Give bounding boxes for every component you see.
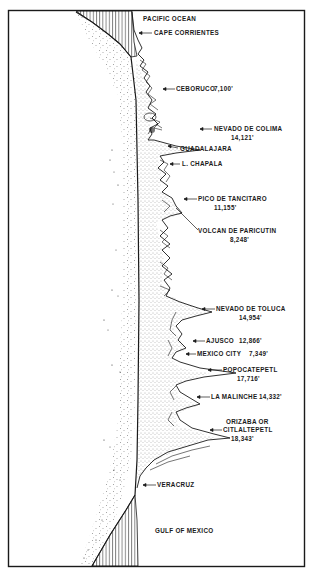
label-nevado-de-toluca: NEVADO DE TOLUCA bbox=[216, 305, 286, 312]
profile-stippled-fill bbox=[136, 60, 215, 480]
label-la-malinche-elevation: 14,332' bbox=[259, 393, 282, 401]
colima-crater bbox=[149, 127, 155, 133]
label-citlaltepetl: CITLALTEPETL bbox=[223, 426, 273, 433]
label-popocatepetl-elevation: 17,716' bbox=[237, 375, 260, 383]
label-nevado-de-colima: NEVADO DE COLIMA bbox=[214, 125, 283, 132]
label-mexico-city: MEXICO CITY bbox=[197, 350, 242, 357]
label-mexico-city-elevation: 7,349' bbox=[249, 350, 268, 358]
label-volcan-de-paricutin: VOLCAN DE PARICUTIN bbox=[198, 227, 277, 234]
label-l-chapala: L. CHAPALA bbox=[182, 160, 223, 167]
label-ajusco: AJUSCO bbox=[206, 337, 234, 344]
gulf-of-mexico-label: GULF OF MEXICO bbox=[155, 527, 213, 534]
label-nevado-de-toluca-elevation: 14,954' bbox=[239, 314, 262, 322]
left-stipple-band bbox=[76, 12, 136, 565]
label-ajusco-elevation: 12,866' bbox=[239, 337, 262, 345]
label-cape-corrientes: CAPE CORRIENTES bbox=[154, 29, 219, 36]
label-nevado-de-colima-elevation: 14,121' bbox=[231, 134, 254, 142]
label-pico-de-tancitaro-elevation: 11,155' bbox=[214, 204, 237, 212]
label-orizaba-elevation: 18,343' bbox=[231, 435, 254, 443]
label-pico-de-tancitaro: PICO DE TANCITARO bbox=[198, 195, 267, 202]
label-ceboruco: CEBORUCO bbox=[176, 85, 215, 92]
volcanic-profile-diagram: PACIFIC OCEAN GULF OF MEXICO CAPE CORRIE… bbox=[0, 0, 313, 575]
label-volcan-de-paricutin-elevation: 8,248' bbox=[230, 236, 249, 244]
label-popocatepetl: POPOCATEPETL bbox=[223, 366, 278, 373]
label-orizaba: ORIZABA OR bbox=[226, 418, 269, 425]
label-guadalajara: GUADALAJARA bbox=[180, 145, 232, 152]
label-la-malinche: LA MALINCHE bbox=[211, 393, 257, 400]
label-veracruz: VERACRUZ bbox=[157, 481, 194, 488]
label-ceboruco-elevation: 7,100' bbox=[214, 85, 233, 93]
pacific-ocean-label: PACIFIC OCEAN bbox=[143, 15, 196, 22]
